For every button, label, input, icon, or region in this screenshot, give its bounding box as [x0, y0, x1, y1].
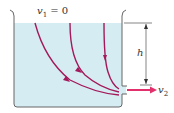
dim-arrow-bottom	[144, 79, 148, 84]
dim-arrow-top	[144, 24, 148, 29]
tank-outline-right-upper	[122, 10, 127, 86]
label-v2: v2	[158, 85, 168, 99]
jet-arrowhead	[150, 87, 157, 94]
label-h: h	[137, 48, 143, 58]
label-v1: v1 = 0	[37, 6, 68, 20]
tank-diagram	[0, 0, 174, 113]
